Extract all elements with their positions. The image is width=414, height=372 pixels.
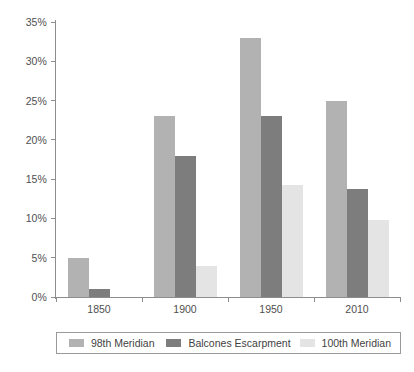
y-tick-label: 30% <box>26 55 56 67</box>
x-axis-label: 1950 <box>259 303 282 315</box>
legend-swatch-icon <box>166 339 181 347</box>
legend-label: 98th Meridian <box>91 337 155 349</box>
bar <box>326 101 347 297</box>
x-axis-label: 2010 <box>345 303 368 315</box>
bar-chart: 0%5%10%15%20%25%30%35% 1850190019502010 <box>0 0 414 318</box>
bar <box>175 156 196 297</box>
bar <box>89 289 110 297</box>
bar <box>196 266 217 297</box>
x-axis-label: 1850 <box>87 303 110 315</box>
x-tick-mark <box>228 297 229 302</box>
y-tick-label: 35% <box>26 16 56 28</box>
x-axis-label: 1900 <box>173 303 196 315</box>
bar-group <box>142 22 228 297</box>
chart-figure: 0%5%10%15%20%25%30%35% 1850190019502010 … <box>0 0 414 372</box>
y-tick-label: 5% <box>32 252 56 264</box>
bar <box>154 116 175 297</box>
y-tick-label: 10% <box>26 212 56 224</box>
legend-label: Balcones Escarpment <box>188 337 290 349</box>
bar <box>347 189 368 297</box>
bar <box>261 116 282 297</box>
y-tick-label: 15% <box>26 173 56 185</box>
y-tick-label: 25% <box>26 95 56 107</box>
bar <box>240 38 261 297</box>
x-tick-mark <box>400 297 401 302</box>
y-tick-label: 20% <box>26 134 56 146</box>
chart-legend: 98th MeridianBalcones Escarpment100th Me… <box>56 332 401 354</box>
bar-groups <box>56 22 400 297</box>
bar <box>282 185 303 297</box>
legend-item[interactable]: 100th Meridian <box>291 337 400 349</box>
bar <box>68 258 89 297</box>
y-tick-label: 0% <box>32 291 56 303</box>
legend-item[interactable]: Balcones Escarpment <box>166 337 290 349</box>
x-tick-mark <box>56 297 57 302</box>
x-tick-mark <box>142 297 143 302</box>
legend-swatch-icon <box>300 339 315 347</box>
legend-swatch-icon <box>69 339 84 347</box>
bar-group <box>314 22 400 297</box>
plot-area: 0%5%10%15%20%25%30%35% <box>56 22 400 297</box>
x-tick-mark <box>314 297 315 302</box>
legend-label: 100th Meridian <box>322 337 391 349</box>
bar-group <box>56 22 142 297</box>
bar <box>368 220 389 297</box>
figure-caption <box>6 364 408 372</box>
legend-item[interactable]: 98th Meridian <box>57 337 166 349</box>
bar-group <box>228 22 314 297</box>
